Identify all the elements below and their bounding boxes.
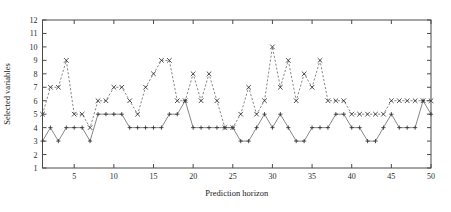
x-tick-label: 5 bbox=[72, 172, 76, 181]
y-tick-label: 7 bbox=[34, 83, 38, 92]
x-marker bbox=[151, 72, 156, 77]
y-tick-label: 6 bbox=[34, 97, 38, 106]
x-tick-label: 45 bbox=[387, 172, 395, 181]
x-marker bbox=[365, 112, 370, 117]
x-marker bbox=[254, 112, 259, 117]
x-marker bbox=[405, 98, 410, 103]
x-marker bbox=[357, 112, 362, 117]
plus-marker bbox=[72, 126, 76, 130]
plus-marker bbox=[175, 112, 179, 116]
x-marker bbox=[112, 85, 117, 90]
plus-marker bbox=[128, 126, 132, 130]
plus-marker bbox=[167, 112, 171, 116]
x-tick-label: 50 bbox=[427, 172, 435, 181]
x-marker bbox=[294, 98, 299, 103]
y-tick-label: 4 bbox=[34, 124, 38, 133]
axes bbox=[43, 20, 432, 168]
plus-marker bbox=[310, 126, 314, 130]
plus-marker bbox=[278, 112, 282, 116]
x-marker bbox=[318, 58, 323, 63]
plus-marker bbox=[302, 139, 306, 143]
y-tick-label: 11 bbox=[30, 29, 38, 38]
x-marker bbox=[119, 85, 124, 90]
x-marker bbox=[238, 112, 243, 117]
plus-marker bbox=[159, 126, 163, 130]
plus-marker bbox=[413, 126, 417, 130]
plus-marker bbox=[262, 112, 266, 116]
y-tick-label: 5 bbox=[34, 110, 38, 119]
plus-marker bbox=[270, 126, 274, 130]
plus-marker bbox=[207, 126, 211, 130]
x-marker bbox=[127, 98, 132, 103]
x-tick-label: 30 bbox=[268, 172, 276, 181]
x-tick-label: 40 bbox=[348, 172, 356, 181]
x-marker bbox=[199, 98, 204, 103]
selected-variables-line-chart: 5101520253035404550 123456789101112 Pred… bbox=[0, 0, 451, 212]
x-marker bbox=[381, 112, 386, 117]
x-marker bbox=[413, 98, 418, 103]
x-marker bbox=[246, 85, 251, 90]
x-marker bbox=[397, 98, 402, 103]
x-axis-title: Prediction horizon bbox=[205, 188, 269, 198]
y-tick-label: 10 bbox=[30, 43, 38, 52]
y-axis-ticks: 123456789101112 bbox=[30, 16, 432, 173]
plus-marker bbox=[429, 112, 433, 116]
plus-marker bbox=[373, 139, 377, 143]
plus-marker bbox=[48, 126, 52, 130]
x-tick-label: 25 bbox=[229, 172, 237, 181]
y-tick-label: 1 bbox=[34, 164, 38, 173]
x-tick-label: 15 bbox=[150, 172, 158, 181]
plus-marker bbox=[350, 126, 354, 130]
plus-marker bbox=[104, 112, 108, 116]
x-marker bbox=[349, 112, 354, 117]
plus-marker bbox=[80, 126, 84, 130]
plus-marker bbox=[151, 126, 155, 130]
plus-marker bbox=[199, 126, 203, 130]
plus-marker bbox=[358, 126, 362, 130]
plus-marker bbox=[405, 126, 409, 130]
plus-marker bbox=[191, 126, 195, 130]
plus-marker bbox=[112, 112, 116, 116]
x-marker bbox=[310, 85, 315, 90]
plus-marker bbox=[120, 112, 124, 116]
plus-marker bbox=[334, 112, 338, 116]
x-marker bbox=[191, 72, 196, 77]
x-marker bbox=[143, 85, 148, 90]
x-tick-label: 20 bbox=[189, 172, 197, 181]
plus-marker bbox=[294, 139, 298, 143]
plus-marker bbox=[215, 126, 219, 130]
plus-marker bbox=[239, 139, 243, 143]
y-tick-label: 8 bbox=[34, 70, 38, 79]
plus-marker bbox=[397, 126, 401, 130]
plus-marker bbox=[254, 126, 258, 130]
x-marker bbox=[96, 98, 101, 103]
x-marker bbox=[135, 112, 140, 117]
x-marker bbox=[175, 98, 180, 103]
plus-marker bbox=[326, 126, 330, 130]
x-axis-ticks: 5101520253035404550 bbox=[72, 20, 435, 181]
x-marker bbox=[373, 112, 378, 117]
series-line-upper bbox=[43, 47, 432, 128]
plot-frame bbox=[43, 20, 432, 168]
x-marker bbox=[215, 98, 220, 103]
data-series bbox=[40, 45, 433, 144]
plus-marker bbox=[64, 126, 68, 130]
plus-marker bbox=[342, 112, 346, 116]
plus-marker bbox=[318, 126, 322, 130]
x-marker bbox=[207, 72, 212, 77]
plus-marker bbox=[143, 126, 147, 130]
plus-marker bbox=[96, 112, 100, 116]
x-tick-label: 10 bbox=[110, 172, 118, 181]
x-marker bbox=[389, 98, 394, 103]
x-marker bbox=[88, 125, 93, 130]
plus-marker bbox=[40, 139, 44, 143]
x-marker bbox=[302, 72, 307, 77]
y-tick-label: 3 bbox=[34, 137, 38, 146]
y-tick-label: 12 bbox=[30, 16, 38, 25]
x-marker bbox=[56, 85, 61, 90]
y-axis-title: Selected variables bbox=[2, 63, 12, 125]
plus-marker bbox=[88, 139, 92, 143]
plus-marker bbox=[247, 139, 251, 143]
x-marker bbox=[278, 85, 283, 90]
plus-marker bbox=[56, 139, 60, 143]
